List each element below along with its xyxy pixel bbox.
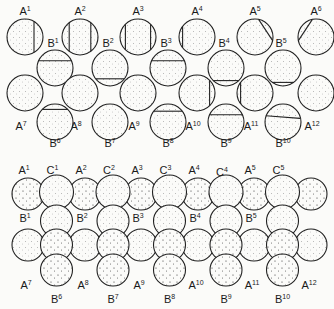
- circle-bottom-a7: [12, 229, 44, 261]
- label-b7: B7: [104, 137, 115, 149]
- circle-b6: [41, 254, 73, 286]
- label-a10: A10: [185, 120, 200, 132]
- circle-c1: [40, 175, 74, 209]
- label-a10: A10: [188, 279, 203, 291]
- label-bottom-b10: B10: [275, 293, 290, 305]
- circle-b8: [150, 104, 186, 140]
- label-a5: A5: [249, 5, 260, 17]
- label-a9: A9: [133, 279, 144, 291]
- label-b1: B1: [19, 212, 30, 224]
- bottom-panel: A1C1A2C2A3C3A4C4A5C5B1B2B3B4B5A7A8A9A10A…: [12, 164, 327, 305]
- circle-a11: [237, 75, 273, 111]
- label-a9: A9: [128, 120, 139, 132]
- label-b5: B5: [245, 212, 256, 224]
- circle-a2: [62, 19, 98, 55]
- circle-b5: [265, 50, 301, 86]
- label-b4: B4: [189, 212, 200, 224]
- label-a1: A1: [19, 5, 30, 17]
- circle-b9: [210, 254, 242, 286]
- label-a2: A2: [75, 164, 86, 176]
- circle-a8: [62, 75, 98, 111]
- circle-b7: [92, 104, 128, 140]
- circle-a12: [298, 75, 334, 111]
- label-c3: C3: [160, 164, 172, 176]
- label-a11: A11: [245, 279, 260, 291]
- circle-b10: [267, 254, 299, 286]
- label-b6: B6: [49, 137, 60, 149]
- label-b3: B3: [160, 37, 171, 49]
- circle-c5: [266, 175, 300, 209]
- circle-a1: [7, 19, 43, 55]
- label-a6: A6: [310, 5, 321, 17]
- label-b2: B2: [76, 212, 87, 224]
- circle-a7: [7, 75, 43, 111]
- circle-b9: [208, 104, 244, 140]
- label-a3: A3: [132, 5, 143, 17]
- label-bottom-b7: B7: [107, 293, 118, 305]
- label-b8: B8: [162, 137, 173, 149]
- circle-bottom-a8: [69, 229, 101, 261]
- circle-packing-diagram: A1A2A3A4A5A6B1B2B3B4B5A7A8A9A10A11A12B6B…: [0, 0, 334, 309]
- circle-b8: [154, 254, 186, 286]
- label-bottom-b6: B6: [51, 293, 62, 305]
- circle-b7: [97, 254, 129, 286]
- circle-bottom-a11: [238, 229, 270, 261]
- label-c2: C2: [103, 164, 115, 176]
- label-a5: A5: [244, 164, 255, 176]
- circle-a4: [179, 19, 215, 55]
- label-a12: A12: [304, 120, 319, 132]
- circle-b3: [150, 50, 186, 86]
- circle-bottom-a9: [125, 229, 157, 261]
- label-bottom-b8: B8: [164, 293, 175, 305]
- circle-a6: [298, 19, 334, 55]
- label-c1: C1: [47, 164, 59, 176]
- label-a7: A7: [15, 120, 26, 132]
- label-b4: B4: [218, 37, 229, 49]
- circle-c3: [153, 175, 187, 209]
- label-b3: B3: [132, 212, 143, 224]
- label-a3: A3: [131, 164, 142, 176]
- label-a1: A1: [18, 164, 29, 176]
- circle-c2: [96, 175, 130, 209]
- label-b1: B1: [47, 37, 58, 49]
- circle-bottom-a10: [182, 229, 214, 261]
- label-b2: B2: [102, 37, 113, 49]
- label-a11: A11: [244, 120, 259, 132]
- circle-bottom-a12: [295, 229, 327, 261]
- circle-b2: [92, 50, 128, 86]
- label-a4: A4: [191, 5, 202, 17]
- label-a8: A8: [77, 279, 88, 291]
- circle-b10: [265, 104, 301, 140]
- label-a4: A4: [188, 164, 199, 176]
- label-a12: A12: [301, 279, 316, 291]
- label-a2: A2: [74, 5, 85, 17]
- label-a7: A7: [20, 279, 31, 291]
- top-panel: A1A2A3A4A5A6B1B2B3B4B5A7A8A9A10A11A12B6B…: [7, 5, 334, 149]
- label-b9: B9: [220, 137, 231, 149]
- circle-a9: [120, 75, 156, 111]
- label-b5: B5: [275, 37, 286, 49]
- label-c5: C5: [273, 164, 285, 176]
- label-b10: B10: [275, 137, 290, 149]
- circle-a5: [237, 19, 273, 55]
- label-bottom-b9: B9: [220, 293, 231, 305]
- circle-c4: [209, 175, 243, 209]
